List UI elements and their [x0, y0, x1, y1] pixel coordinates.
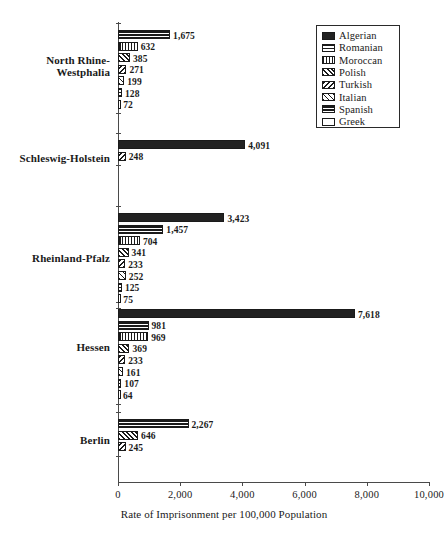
bar-value-label: 248: [129, 152, 144, 162]
bar-value-label: 2,267: [192, 420, 214, 430]
x-axis-line: [118, 482, 429, 483]
bar: [118, 332, 148, 341]
x-axis-tick: [242, 482, 243, 486]
y-axis-category-label: Rheinland-Pfalz: [0, 252, 110, 264]
legend: AlgerianRomanianMoroccanPolishTurkishIta…: [316, 25, 400, 128]
legend-item-romanian[interactable]: Romanian: [322, 42, 383, 53]
bar: [118, 355, 125, 364]
legend-swatch-icon: [322, 32, 335, 40]
bar-value-label: 3,423: [227, 214, 249, 224]
bar: [118, 100, 121, 109]
y-axis-category-label: Hessen: [0, 341, 110, 353]
legend-item-spanish[interactable]: Spanish: [322, 104, 373, 115]
bar-value-label: 233: [128, 260, 143, 270]
legend-swatch-icon: [322, 105, 335, 113]
legend-item-greek[interactable]: Greek: [322, 116, 365, 127]
legend-item-polish[interactable]: Polish: [322, 67, 366, 78]
bar: [118, 390, 121, 399]
y-axis-group-tick: [116, 113, 121, 114]
bar: [118, 152, 126, 161]
bar-value-label: 981: [152, 321, 167, 331]
bar-value-label: 704: [143, 237, 158, 247]
legend-item-label: Spanish: [339, 104, 373, 115]
legend-swatch-icon: [322, 68, 335, 76]
legend-item-italian[interactable]: Italian: [322, 92, 367, 103]
x-axis-tick-label: 4,000: [212, 489, 272, 500]
bar: [118, 65, 126, 74]
bar-value-label: 252: [129, 272, 144, 282]
legend-item-label: Romanian: [339, 42, 383, 53]
legend-item-moroccan[interactable]: Moroccan: [322, 55, 382, 66]
legend-swatch-icon: [322, 118, 335, 126]
legend-item-label: Greek: [339, 116, 365, 127]
bar: [118, 53, 130, 62]
bar-value-label: 271: [129, 65, 144, 75]
bar-value-label: 161: [126, 368, 141, 378]
x-axis-tick: [118, 482, 119, 486]
bar: [118, 76, 124, 85]
x-axis-tick: [305, 482, 306, 486]
bar-value-label: 107: [124, 379, 139, 389]
legend-item-label: Moroccan: [339, 55, 382, 66]
bar: [118, 225, 163, 234]
bar-value-label: 199: [127, 77, 142, 87]
bar-value-label: 341: [132, 248, 147, 258]
bar: [118, 42, 138, 51]
bar: [118, 271, 126, 280]
x-axis-tick-label: 0: [88, 489, 148, 500]
bar-value-label: 1,457: [166, 225, 188, 235]
legend-swatch-icon: [322, 56, 335, 64]
bar-value-label: 64: [123, 391, 133, 401]
legend-item-label: Turkish: [339, 79, 372, 90]
legend-item-label: Polish: [339, 67, 366, 78]
y-axis-group-tick: [116, 412, 121, 413]
x-axis-tick-label: 6,000: [275, 489, 335, 500]
y-axis-group-tick: [116, 165, 121, 166]
bar-value-label: 4,091: [248, 141, 270, 151]
bar-value-label: 245: [129, 443, 144, 453]
bar-value-label: 7,618: [358, 310, 380, 320]
legend-swatch-icon: [322, 81, 335, 89]
y-axis-group-tick: [116, 404, 121, 405]
y-axis-group-tick: [116, 133, 121, 134]
bar-value-label: 75: [123, 295, 133, 305]
legend-swatch-icon: [322, 93, 335, 101]
bar: [118, 419, 189, 428]
bar: [118, 294, 121, 303]
y-axis-group-tick: [116, 456, 121, 457]
bar: [118, 236, 140, 245]
bar: [118, 442, 126, 451]
bar: [118, 431, 138, 440]
bar-value-label: 646: [141, 431, 156, 441]
x-axis-tick-label: 10,000: [399, 489, 448, 500]
bar: [118, 88, 122, 97]
y-axis-group-tick: [116, 206, 121, 207]
bar: [118, 213, 224, 222]
bar: [118, 379, 121, 388]
x-axis-tick: [367, 482, 368, 486]
bar-value-label: 233: [128, 356, 143, 366]
x-axis-tick-label: 8,000: [337, 489, 397, 500]
bar: [118, 309, 355, 318]
bar-value-label: 385: [133, 54, 148, 64]
bar: [118, 140, 245, 149]
legend-item-algerian[interactable]: Algerian: [322, 30, 377, 41]
bar-value-label: 969: [151, 333, 166, 343]
bar-value-label: 72: [123, 100, 133, 110]
y-axis-category-label: Berlin: [0, 434, 110, 446]
y-axis-group-tick: [116, 23, 121, 24]
x-axis-tick: [180, 482, 181, 486]
bar: [118, 248, 129, 257]
bar: [118, 321, 149, 330]
x-axis-tick: [429, 482, 430, 486]
bar: [118, 367, 123, 376]
legend-item-turkish[interactable]: Turkish: [322, 79, 372, 90]
bar-value-label: 632: [141, 42, 156, 52]
y-axis-category-label: North Rhine- Westphalia: [0, 54, 110, 78]
legend-swatch-icon: [322, 44, 335, 52]
legend-item-label: Italian: [339, 92, 367, 103]
bar-value-label: 369: [132, 344, 147, 354]
bar: [118, 259, 125, 268]
bar-value-label: 125: [125, 283, 140, 293]
bar: [118, 344, 129, 353]
